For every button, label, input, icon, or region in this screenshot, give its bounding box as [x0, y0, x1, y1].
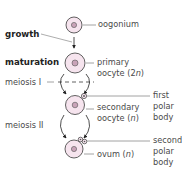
primary-oocyte-ploidy-prefix: oocyte (2 — [97, 68, 136, 78]
first-polar-body-line2: polar — [153, 101, 174, 111]
oogonium-cell — [66, 17, 82, 33]
secondary-oocyte-ploidy-prefix: oocyte ( — [97, 113, 130, 123]
second-polar-body-line1: second — [153, 135, 182, 145]
primary-oocyte-label-line2: oocyte (2n) — [97, 68, 144, 78]
second-polar-body-line2: polar — [153, 146, 174, 156]
secondary-oocyte-cell — [66, 96, 85, 115]
meiosis-2-label: meiosis II — [5, 120, 44, 130]
first-polar-body — [81, 93, 86, 98]
ovum-ploidy-prefix: ovum ( — [97, 149, 126, 159]
secondary-oocyte-label-line2: oocyte (n) — [97, 113, 139, 123]
meiosis-1-left-arc — [60, 74, 66, 94]
secondary-oocyte-ploidy-suffix: ) — [136, 113, 139, 123]
meiosis-1-right-arc — [84, 74, 90, 94]
meiosis-2-left-arc — [60, 115, 66, 138]
secondary-oocyte-label-line1: secondary — [97, 102, 139, 112]
growth-leader-line — [41, 34, 72, 42]
ovum-cell — [65, 140, 83, 158]
ovum-label: ovum (n) — [97, 149, 134, 159]
first-polar-body-line3: body — [153, 112, 173, 122]
meiosis-2-right-arc — [84, 115, 90, 138]
maturation-stage-label: maturation — [5, 57, 59, 67]
first-polar-body-line1: first — [153, 90, 169, 100]
ovum-ploidy-suffix: ) — [131, 149, 134, 159]
second-polar-body-line3: body — [153, 157, 173, 167]
meiosis-1-label: meiosis I — [5, 77, 41, 87]
primary-oocyte-ploidy-suffix: ) — [141, 68, 144, 78]
growth-stage-label: growth — [5, 29, 39, 39]
oogonium-label: oogonium — [98, 19, 139, 29]
primary-oocyte-cell — [65, 53, 85, 73]
primary-oocyte-label-line1: primary — [97, 57, 129, 67]
